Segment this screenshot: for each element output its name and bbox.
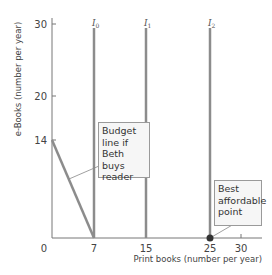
x-tick-label-15: 15 <box>140 243 153 254</box>
x-tick-label-30: 30 <box>235 243 248 254</box>
best-annotation-line1: Best <box>218 183 258 195</box>
budget-annotation-line4: reader <box>102 171 146 183</box>
y-tick-label-20: 20 <box>34 91 47 102</box>
y-tick-label-14: 14 <box>34 135 47 146</box>
x-tick-label-0: 0 <box>41 243 47 254</box>
x-tick-label-7: 7 <box>91 243 97 254</box>
y-axis-title: e-Books (number per year) <box>13 22 23 137</box>
budget-annotation-line2: line if <box>102 137 146 149</box>
curve-label-i2: I2 <box>207 18 216 29</box>
best-annotation-line3: point <box>218 206 258 218</box>
budget-line-annotation: Budget line if Beth buys reader <box>98 122 150 178</box>
budget-annotation-line1: Budget <box>102 125 146 137</box>
y-tick-label-30: 30 <box>34 19 47 30</box>
budget-annotation-line3: Beth buys <box>102 148 146 171</box>
budget-line <box>52 140 94 238</box>
x-axis-title: Print books (number per year) <box>134 254 262 264</box>
x-tick-label-25: 25 <box>204 243 217 254</box>
best-annotation-line2: affordable <box>218 195 258 207</box>
best-point-annotation: Best affordable point <box>214 180 262 226</box>
curve-label-i1: I1 <box>143 18 151 29</box>
best-affordable-point <box>207 235 214 242</box>
curve-label-i0: I0 <box>91 18 100 29</box>
best-point-leader-line <box>210 224 234 238</box>
